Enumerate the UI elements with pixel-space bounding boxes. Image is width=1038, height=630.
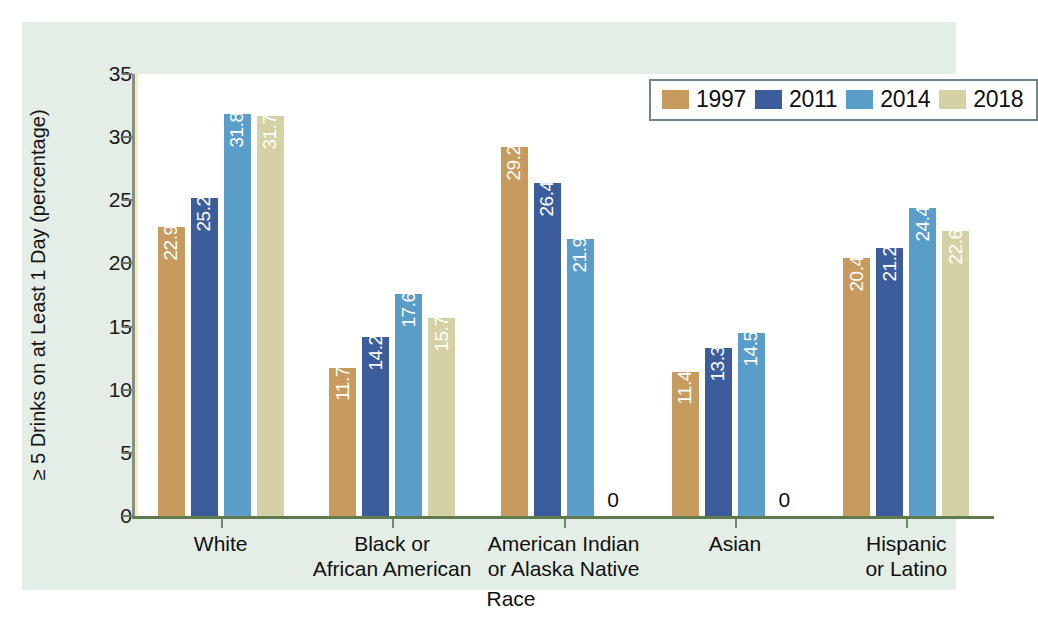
bar-value-label: 31.8 [226,113,248,148]
x-tick-mark [392,519,394,528]
bar: 11.7 [329,368,356,516]
x-tick-label: American Indianor Alaska Native [488,531,640,581]
bar: 26.4 [534,183,561,516]
bar-value-label: 17.6 [398,292,420,327]
bar: 31.7 [257,116,284,516]
bar-value-label: 26.4 [536,181,558,216]
x-tick-mark [906,519,908,528]
bar: 21.9 [567,239,594,516]
chart-legend: 1997201120142018 [649,79,1038,121]
bar-value-label: 21.9 [569,238,591,273]
bar: 22.9 [158,227,185,516]
bar-value-label: 13.3 [707,347,729,382]
x-tick-label: Asian [709,531,762,556]
bar-value-label: 22.9 [160,225,182,260]
bar-value-label: 11.7 [332,367,354,401]
x-tick-mark [221,519,223,528]
y-axis-title: ≥ 5 Drinks on at Least 1 Day (percentage… [27,109,50,480]
x-tick-label: Black orAfrican American [313,531,472,581]
bar-value-label: 29.2 [503,146,525,181]
zero-value-label: 0 [600,488,627,512]
x-tick-mark [564,519,566,528]
bar-value-label: 11.4 [674,371,696,405]
bar: 20.4 [843,258,870,516]
x-tick-mark [735,519,737,528]
bar: 14.2 [362,337,389,516]
legend-label: 2014 [880,86,930,113]
bar: 31.8 [224,114,251,516]
x-tick-label-line: Black or [313,531,472,556]
bar-group: 11.714.217.615.7 [329,74,455,516]
legend-swatch [755,90,782,109]
bar-value-label: 24.4 [912,206,934,241]
y-tick-mark [122,452,132,454]
bar-value-label: 22.6 [945,229,967,264]
y-axis: ≥ 5 Drinks on at Least 1 Day (percentage… [44,74,132,516]
legend-entry: 2011 [755,86,837,113]
bar: 17.6 [395,294,422,516]
y-tick-mark [122,199,132,201]
bar-value-label: 14.5 [740,331,762,366]
legend-swatch [846,90,873,109]
bar-group: 22.925.231.831.7 [158,74,284,516]
x-tick-label-line: White [194,531,248,556]
y-tick-mark [122,73,132,75]
bar: 11.4 [672,372,699,516]
x-tick-label: White [194,531,248,556]
legend-swatch [939,90,966,109]
legend-swatch [662,90,689,109]
x-tick-label-line: Hispanic [865,531,947,556]
bars-layer: 22.925.231.831.711.714.217.615.729.226.4… [135,74,992,516]
x-tick-label-line: Asian [709,531,762,556]
chart-panel: ≥ 5 Drinks on at Least 1 Day (percentage… [22,22,956,590]
bar-value-label: 15.7 [431,316,453,351]
legend-entry: 2018 [939,86,1023,113]
bar-group: 29.226.421.90 [501,74,627,516]
bar-group: 20.421.224.422.6 [843,74,969,516]
bar-value-label: 20.4 [846,257,868,292]
x-tick-label-line: or Alaska Native [488,556,640,581]
bar: 25.2 [191,198,218,516]
x-tick-label: Hispanicor Latino [865,531,947,581]
bar: 14.5 [738,333,765,516]
legend-label: 1997 [696,86,746,113]
x-tick-label-line: American Indian [488,531,640,556]
zero-value-label: 0 [771,488,798,512]
bar-value-label: 21.2 [879,247,901,282]
bar: 21.2 [876,248,903,516]
y-tick-mark [122,262,132,264]
bar-value-label: 31.7 [259,114,281,149]
bar: 29.2 [501,147,528,516]
x-tick-label-line: or Latino [865,556,947,581]
y-tick-mark [122,515,132,517]
bar: 15.7 [428,318,455,516]
bar-value-label: 14.2 [365,335,387,370]
x-tick-label-line: African American [313,556,472,581]
bar: 24.4 [909,208,936,516]
bar-group: 11.413.314.50 [672,74,798,516]
x-axis-title: Race [44,587,978,611]
y-tick-mark [122,389,132,391]
bar-value-label: 25.2 [193,196,215,231]
legend-entry: 1997 [662,86,746,113]
legend-label: 2018 [973,86,1023,113]
legend-entry: 2014 [846,86,930,113]
y-tick-mark [122,326,132,328]
bar: 13.3 [705,348,732,516]
bar: 22.6 [942,231,969,516]
x-axis: WhiteBlack orAfrican AmericanAmerican In… [132,519,994,579]
y-tick-mark [122,136,132,138]
legend-label: 2011 [789,86,837,113]
